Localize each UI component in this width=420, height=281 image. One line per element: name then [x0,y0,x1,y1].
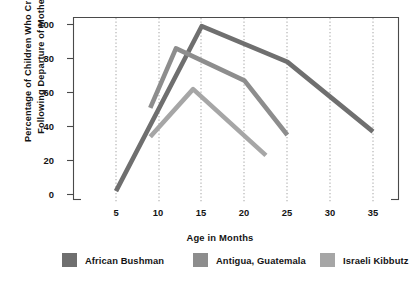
x-tick-label-30: 30 [318,207,342,218]
legend-label-0: African Bushman [85,255,164,266]
series-israeli-kibbutz [150,89,266,155]
x-tick-label-5: 5 [104,207,128,218]
legend-label-2: Israeli Kibbutz [343,255,408,266]
legend-item-antigua-guatemala: Antigua, Guatemala [193,250,306,270]
x-tick-label-25: 25 [275,207,299,218]
legend-swatch-icon-1 [193,253,208,267]
y-tick-label-40: 40 [28,121,54,132]
y-tick-label-20: 20 [28,155,54,166]
y-axis-ticks [67,25,73,195]
x-tick-label-35: 35 [361,207,385,218]
chart-legend: African Bushman Antigua, Guatemala Israe… [0,250,420,272]
legend-swatch-icon-0 [62,253,77,267]
vertical-gridlines [116,18,373,203]
y-tick-label-60: 60 [28,87,54,98]
legend-item-african-bushman: African Bushman [62,250,164,270]
legend-item-israeli-kibbutz: Israeli Kibbutz [320,250,408,270]
line-chart: Percentage of Children Who Cried Followi… [0,0,420,281]
x-tick-label-15: 15 [189,207,213,218]
y-tick-label-100: 100 [28,19,54,30]
axis-frame [73,17,399,200]
y-tick-label-80: 80 [28,53,54,64]
x-tick-label-10: 10 [146,207,170,218]
y-tick-label-0: 0 [28,189,54,200]
legend-swatch-icon-2 [320,253,335,267]
x-axis-title: Age in Months [60,232,380,243]
series-antigua-guatemala [150,48,287,135]
legend-label-1: Antigua, Guatemala [216,255,306,266]
series-african-bushman [116,26,373,191]
x-tick-label-20: 20 [232,207,256,218]
